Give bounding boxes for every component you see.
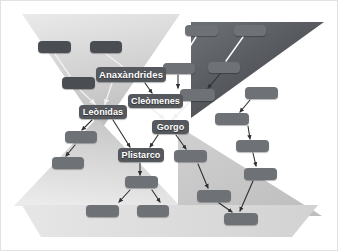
connector-gorgo-to-n-m-1 (176, 135, 186, 149)
connector-n-tr-1-to-n-tr-3 (180, 37, 196, 62)
node-n-m-3[interactable] (224, 213, 258, 225)
node-n-tr-4[interactable] (208, 62, 240, 73)
diagram-background: AnaxàndridesCleòmenesLeònidasGorgoPlista… (0, 0, 338, 251)
node-n-r-2[interactable] (215, 113, 249, 125)
node-n-b-2[interactable] (86, 205, 119, 217)
node-cleomenes[interactable]: Cleòmenes (128, 94, 183, 108)
connector-n-tr-4-to-n-tr-5 (208, 74, 220, 88)
connector-cleomenes-to-gorgo (152, 109, 164, 119)
connector-n-r-2-to-n-r-3 (248, 126, 250, 139)
node-n-bl-1[interactable] (65, 131, 97, 143)
node-n-r-3[interactable] (236, 140, 269, 152)
connector-n-r-1-to-n-r-2 (240, 100, 250, 112)
connector-n-tl-2-to-anaxandrides (106, 54, 122, 66)
node-label: Plistarco (122, 151, 161, 160)
node-anaxandrides[interactable]: Anaxàndrides (96, 67, 166, 82)
node-n-r-1[interactable] (245, 87, 278, 99)
connector-n-tl-1-to-n-tl-3 (55, 54, 70, 76)
connector-leonidas-to-plistarco (113, 120, 130, 147)
node-n-m-1[interactable] (174, 150, 207, 162)
node-n-tl-2[interactable] (90, 41, 122, 53)
connector-n-b-1-to-n-b-3 (152, 190, 160, 202)
node-n-tr-1[interactable] (185, 25, 218, 36)
node-n-tr-5[interactable] (180, 89, 215, 101)
connector-anaxandrides-to-leonidas (105, 83, 112, 104)
node-label: Gorgo (157, 123, 185, 132)
node-n-tr-2[interactable] (234, 25, 266, 36)
connector-n-b-1-to-n-b-2 (119, 190, 130, 202)
node-n-bl-2[interactable] (52, 157, 84, 169)
connector-n-tr-2-to-n-tr-4 (226, 37, 243, 61)
connector-n-m-2-to-n-m-3 (219, 203, 232, 212)
node-n-m-2[interactable] (197, 190, 231, 202)
node-n-tl-3[interactable] (62, 77, 95, 89)
connector-anaxandrides-to-cleomenes (145, 83, 152, 93)
node-label: Cleòmenes (131, 97, 180, 106)
connector-leonidas-to-n-bl-1 (82, 120, 92, 130)
node-gorgo[interactable]: Gorgo (152, 120, 189, 134)
connector-n-bl-1-to-n-bl-2 (66, 145, 75, 156)
node-leonidas[interactable]: Leònidas (79, 105, 127, 119)
node-n-b-3[interactable] (137, 205, 169, 217)
connector-gorgo-to-plistarco (150, 135, 158, 147)
connector-n-tl-3-to-leonidas (80, 90, 95, 104)
connector-n-r-4-to-n-m-3 (240, 181, 253, 211)
diagram-canvas: AnaxàndridesCleòmenesLeònidasGorgoPlista… (0, 0, 338, 251)
node-n-tr-3[interactable] (163, 63, 195, 74)
node-label: Anaxàndrides (99, 70, 163, 80)
node-n-tl-1[interactable] (38, 41, 71, 53)
node-n-b-1[interactable] (125, 176, 158, 188)
node-n-r-4[interactable] (244, 168, 277, 180)
node-label: Leònidas (83, 108, 123, 117)
node-plistarco[interactable]: Plistarco (118, 148, 164, 162)
connector-n-r-3-to-n-r-4 (253, 153, 256, 166)
connector-n-m-1-to-n-m-2 (198, 164, 208, 188)
